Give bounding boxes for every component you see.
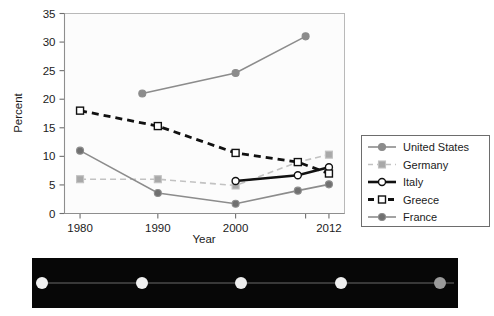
data-point-marker <box>294 172 301 179</box>
x-axis-ticks: 1980199020002012 <box>67 214 341 234</box>
data-point-marker <box>77 107 84 114</box>
data-point-marker <box>77 176 84 183</box>
legend-item-label: United States <box>403 141 470 153</box>
legend-item-label: France <box>403 211 437 223</box>
legend-item-label: Germany <box>403 159 449 171</box>
y-tick-label: 5 <box>49 179 55 191</box>
y-tick-label: 10 <box>43 150 56 162</box>
y-tick-label: 30 <box>43 36 56 48</box>
data-point-marker <box>302 33 309 40</box>
data-point-marker <box>77 147 84 154</box>
strip-dot <box>434 277 446 289</box>
strip-dot <box>335 277 347 289</box>
data-point-marker <box>232 69 239 76</box>
strip-dot <box>136 277 148 289</box>
data-point-marker <box>139 90 146 97</box>
data-point-marker <box>325 170 332 177</box>
data-point-marker <box>379 144 386 151</box>
data-point-marker <box>294 187 301 194</box>
legend-item-greece[interactable]: Greece <box>368 194 439 206</box>
data-point-marker <box>379 179 386 186</box>
y-axis-title: Percent <box>12 92 24 132</box>
y-tick-label: 35 <box>43 8 56 20</box>
data-point-marker <box>379 196 386 203</box>
legend-item-label: Italy <box>403 176 424 188</box>
strip-dot <box>235 277 247 289</box>
data-point-marker <box>232 200 239 207</box>
chart-legend[interactable]: United StatesGermanyItalyGreeceFrance <box>362 136 490 227</box>
x-tick-label: 1990 <box>145 222 171 234</box>
y-tick-label: 0 <box>49 208 55 220</box>
x-tick-label: 2012 <box>316 222 342 234</box>
data-point-marker <box>325 151 332 158</box>
x-axis-title: Year <box>192 233 215 245</box>
image-strip <box>32 258 458 308</box>
legend-item-label: Greece <box>403 194 439 206</box>
data-point-marker <box>232 177 239 184</box>
y-tick-label: 25 <box>43 65 56 77</box>
data-point-marker <box>294 159 301 166</box>
y-tick-label: 15 <box>43 122 56 134</box>
y-tick-label: 20 <box>43 93 56 105</box>
x-tick-label: 2000 <box>223 222 249 234</box>
data-point-marker <box>154 176 161 183</box>
data-point-marker <box>379 161 386 168</box>
data-point-marker <box>154 189 161 196</box>
figure-container: 05101520253035 1980199020002012 Percent … <box>0 0 494 316</box>
y-axis-ticks: 05101520253035 <box>43 8 65 220</box>
data-point-marker <box>232 149 239 156</box>
strip-dot <box>36 277 48 289</box>
data-point-marker <box>379 214 386 221</box>
data-point-marker <box>325 181 332 188</box>
line-chart: 05101520253035 1980199020002012 Percent … <box>0 0 494 248</box>
data-point-marker <box>154 123 161 130</box>
x-tick-label: 1980 <box>67 222 93 234</box>
